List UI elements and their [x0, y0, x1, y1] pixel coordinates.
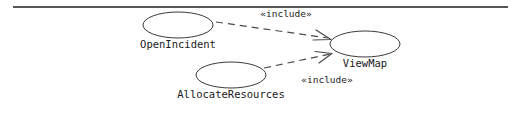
use-case-allocate-resources[interactable]: AllocateResources	[177, 62, 284, 100]
use-case-label-open-incident: OpenIncident	[140, 38, 216, 50]
diagram-canvas: OpenIncident ViewMap AllocateResources «…	[0, 0, 521, 117]
include-relationship-allocate-resources-view-map[interactable]: «include»	[264, 52, 353, 86]
include-dependency-line	[264, 54, 330, 68]
use-case-ellipse[interactable]	[330, 31, 400, 57]
use-case-label-view-map: ViewMap	[343, 57, 387, 69]
include-relationship-open-incident-view-map[interactable]: «include»	[216, 8, 331, 40]
use-case-ellipse[interactable]	[143, 12, 213, 38]
open-arrowhead-icon	[313, 30, 331, 40]
include-dependency-line	[216, 22, 328, 38]
use-case-diagram: OpenIncident ViewMap AllocateResources «…	[0, 0, 521, 117]
use-case-label-allocate-resources: AllocateResources	[177, 88, 284, 100]
stereotype-label-include: «include»	[301, 74, 353, 85]
use-case-ellipse[interactable]	[196, 62, 266, 88]
use-case-open-incident[interactable]: OpenIncident	[140, 12, 216, 50]
stereotype-label-include: «include»	[260, 8, 312, 19]
use-case-view-map[interactable]: ViewMap	[330, 31, 400, 69]
